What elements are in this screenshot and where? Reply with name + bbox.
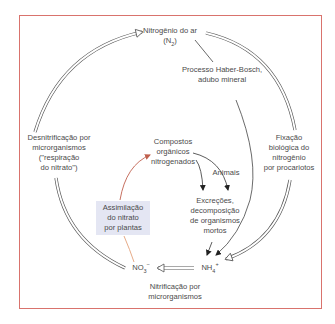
fixation-line2: biológica do	[256, 143, 322, 153]
nitrate-sup: −	[147, 261, 150, 267]
node-assimilation: Assimilação do nitrato por plantas	[96, 203, 150, 233]
n2-formula: (N2)	[140, 36, 200, 46]
excretions-line1: Excreções,	[182, 196, 248, 206]
nitrate-base: NO	[132, 263, 143, 272]
organic-line3: nitrogenados	[145, 157, 201, 167]
node-nitrogen-air: Nitrogênio do ar (N2)	[140, 26, 200, 46]
fixation-line4: por procariotos	[256, 163, 322, 173]
fixation-line3: nitrogênio	[256, 153, 322, 163]
assimilation-line3: por plantas	[96, 223, 150, 233]
node-animals: Animais	[206, 168, 246, 178]
organic-line2: orgânicos	[145, 147, 201, 157]
node-organic-compounds: Compostos orgânicos nitrogenados	[145, 137, 201, 167]
nitrate-sub: 3	[144, 268, 147, 274]
denitrification-line1: Desnitrificação por	[22, 133, 96, 143]
node-nitrification: Nitrificação por microrganismos	[140, 282, 210, 302]
excretions-line4: mortos	[182, 226, 248, 236]
denitrification-line2: microrganismos	[22, 143, 96, 153]
denitrification-arrow-upper	[35, 32, 142, 132]
node-haber-bosch: Processo Haber-Bosch, adubo mineral	[174, 65, 270, 85]
ammonium-sup: +	[215, 261, 218, 267]
node-ammonium: NH4+	[197, 263, 223, 273]
node-nitrate: NO3−	[128, 263, 154, 273]
excretions-line3: de organismos	[182, 216, 248, 226]
excretions-to-nh4-arrow	[207, 242, 212, 255]
fixation-line1: Fixação	[256, 133, 322, 143]
excretions-line2: decomposição	[182, 206, 248, 216]
node-fixation: Fixação biológica do nitrogênio por proc…	[256, 133, 322, 173]
organic-line1: Compostos	[145, 137, 201, 147]
denitrification-line3: ("respiração	[22, 153, 96, 163]
nitrification-line1: Nitrificação por	[140, 282, 210, 292]
nitrification-line2: microrganismos	[140, 292, 210, 302]
nitrogen-air-label: Nitrogênio do ar	[140, 26, 200, 36]
assimilation-line1: Assimilação	[96, 203, 150, 213]
ammonium-base: NH	[201, 263, 212, 272]
denitrification-line4: do nitrato")	[22, 163, 96, 173]
assimilation-line2: do nitrato	[96, 213, 150, 223]
ammonium-sub: 4	[212, 268, 215, 274]
node-excretions: Excreções, decomposição de organismos mo…	[182, 196, 248, 236]
node-denitrification: Desnitrificação por microrganismos ("res…	[22, 133, 96, 173]
haber-bosch-label: Processo Haber-Bosch,	[174, 65, 270, 75]
assimilation-arrow-lower	[124, 236, 134, 262]
mineral-fertilizer-label: adubo mineral	[174, 75, 270, 85]
